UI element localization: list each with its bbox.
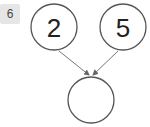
left-part-value: 2 (47, 13, 61, 43)
arrow-right-to-whole (93, 51, 118, 75)
arrow-left-to-whole (59, 51, 89, 75)
right-part-circle: 5 (100, 4, 146, 50)
number-bond-diagram: 2 5 (0, 0, 150, 127)
whole-circle[interactable] (68, 77, 114, 123)
left-part-circle: 2 (31, 4, 77, 50)
right-part-value: 5 (116, 13, 130, 43)
